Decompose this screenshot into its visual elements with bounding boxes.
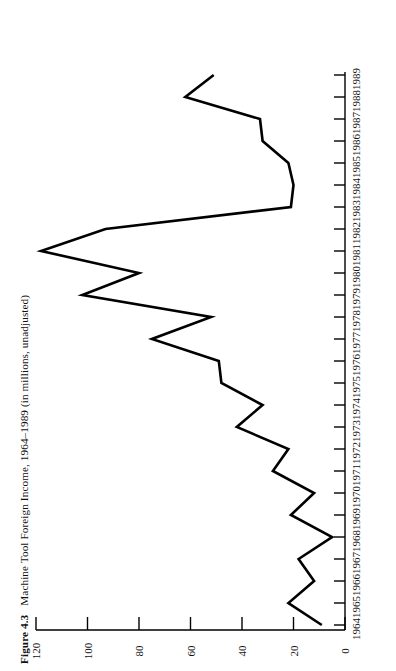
value-tick-label: 40 bbox=[236, 631, 248, 671]
value-tick-label: 60 bbox=[185, 631, 197, 671]
value-tick-label: 120 bbox=[30, 631, 42, 671]
data-series-line bbox=[41, 75, 332, 625]
year-label: 1989 bbox=[350, 56, 362, 90]
value-tick-label: 100 bbox=[82, 631, 94, 671]
value-axis-ticks bbox=[36, 617, 345, 630]
plot-area: 120100806040200 196419651966196719681969… bbox=[0, 0, 396, 671]
line-chart-svg bbox=[0, 0, 396, 671]
value-tick-label: 20 bbox=[288, 631, 300, 671]
figure-container: Figure 4.3Machine Tool Foreign Income, 1… bbox=[0, 0, 396, 671]
category-axis-ticks bbox=[334, 75, 345, 625]
value-tick-label: 80 bbox=[133, 631, 145, 671]
